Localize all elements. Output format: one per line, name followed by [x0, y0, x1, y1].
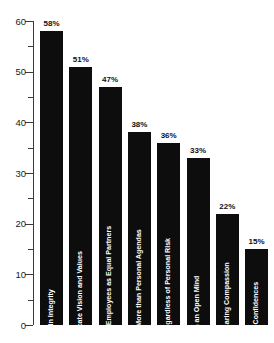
y-tick-minor — [28, 148, 33, 149]
bar-category-label: Openly Communicate Vision and Values — [69, 315, 92, 322]
bar-value-label: 33% — [187, 147, 210, 155]
bar[interactable]: Listen with an Open Mind — [187, 158, 210, 325]
bar-category-label: Focus on Shared Goals More than Personal… — [128, 315, 151, 322]
bar-category-text: Listen with an Open Mind — [194, 275, 201, 343]
bar-group[interactable]: 36%Do the Right Thing Regardless of Pers… — [157, 14, 180, 325]
y-tick-minor — [28, 249, 33, 250]
bar-category-label: Maintain Integrity — [40, 315, 63, 322]
bar[interactable]: Maintain Confidences — [245, 249, 268, 325]
bar-group[interactable]: 22%Demonstrate Caring Compassion — [216, 14, 239, 325]
bar-category-text: Maintain Integrity — [48, 289, 55, 343]
bar-category-label: Demonstrate Caring Compassion — [216, 315, 239, 322]
bar-value-label: 58% — [40, 20, 63, 28]
bar-group[interactable]: 33%Listen with an Open Mind — [187, 14, 210, 325]
y-tick-minor — [28, 46, 33, 47]
y-tick-minor — [28, 97, 33, 98]
bar[interactable]: Demonstrate Caring Compassion — [216, 214, 239, 325]
bar-value-label: 47% — [99, 76, 122, 84]
y-tick-label: 0 — [0, 321, 26, 331]
y-tick-major — [25, 274, 33, 275]
bar[interactable]: Maintain Integrity — [40, 31, 63, 325]
bar-value-label: 36% — [157, 132, 180, 140]
bar-value-label: 51% — [69, 56, 92, 64]
bar-category-label: Do the Right Thing Regardless of Persona… — [157, 315, 180, 322]
bar-category-text: Demonstrate Caring Compassion — [224, 262, 231, 343]
y-tick-major — [25, 122, 33, 123]
y-tick-label: 30 — [0, 169, 26, 179]
bar-value-label: 38% — [128, 121, 151, 129]
bar[interactable]: Show Respect for Fellow Employees as Equ… — [99, 87, 122, 325]
bar-group[interactable]: 47%Show Respect for Fellow Employees as … — [99, 14, 122, 325]
bar-chart: 0102030405060 58%Maintain Integrity51%Op… — [0, 0, 274, 343]
y-tick-minor — [28, 198, 33, 199]
bar-category-label: Show Respect for Fellow Employees as Equ… — [99, 315, 122, 322]
bar-group[interactable]: 51%Openly Communicate Vision and Values — [69, 14, 92, 325]
y-tick-major — [25, 173, 33, 174]
bar-value-label: 15% — [245, 238, 268, 246]
y-tick-major — [25, 21, 33, 22]
bar-category-text: Maintain Confidences — [253, 282, 260, 343]
bar-category-text: Focus on Shared Goals More than Personal… — [136, 229, 143, 343]
bar-group[interactable]: 58%Maintain Integrity — [40, 14, 63, 325]
bar-category-label: Listen with an Open Mind — [187, 315, 210, 322]
bar[interactable]: Openly Communicate Vision and Values — [69, 67, 92, 325]
bar-group[interactable]: 15%Maintain Confidences — [245, 14, 268, 325]
y-tick-label: 20 — [0, 219, 26, 229]
bar-category-text: Do the Right Thing Regardless of Persona… — [165, 238, 172, 343]
bar-category-label: Maintain Confidences — [245, 315, 268, 322]
y-axis-line — [33, 21, 34, 325]
y-tick-major — [25, 224, 33, 225]
bar-category-text: Show Respect for Fellow Employees as Equ… — [107, 226, 114, 343]
bar-category-text: Openly Communicate Vision and Values — [77, 251, 84, 343]
bar[interactable]: Focus on Shared Goals More than Personal… — [128, 132, 151, 325]
y-tick-label: 10 — [0, 270, 26, 280]
y-tick-minor — [28, 300, 33, 301]
y-tick-label: 60 — [0, 17, 26, 27]
plot-area: 58%Maintain Integrity51%Openly Communica… — [38, 14, 274, 325]
y-tick-label: 50 — [0, 67, 26, 77]
bar[interactable]: Do the Right Thing Regardless of Persona… — [157, 143, 180, 325]
y-tick-label: 40 — [0, 118, 26, 128]
y-tick-major — [25, 325, 33, 326]
bar-group[interactable]: 38%Focus on Shared Goals More than Perso… — [128, 14, 151, 325]
bar-value-label: 22% — [216, 203, 239, 211]
y-tick-major — [25, 72, 33, 73]
